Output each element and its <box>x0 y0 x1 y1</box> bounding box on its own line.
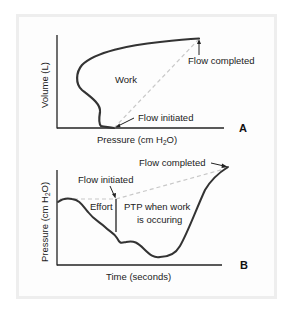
chart-a-work-label: Work <box>115 74 137 85</box>
chart-a-flow-completed-label: Flow completed <box>188 55 255 66</box>
figure-svg: Work Flow completed Flow initiated Press… <box>0 0 292 312</box>
chart-b-flow-initiated-label: Flow initiated <box>78 174 133 185</box>
chart-b-ptp-label-line1: PTP when work <box>124 201 191 212</box>
chart-b-flow-initiated-arrow <box>110 186 114 195</box>
chart-b-flow-completed-label: Flow completed <box>139 157 206 168</box>
arrowhead-icon <box>112 193 116 199</box>
chart-b-letter: B <box>240 259 248 271</box>
chart-a-flow-initiated-label: Flow initiated <box>138 112 193 123</box>
chart-b-x-axis-label: Time (seconds) <box>106 271 171 282</box>
chart-a-x-axis-label: Pressure (cm H2O) <box>97 134 177 146</box>
chart-a-letter: A <box>239 122 247 134</box>
chart-b: Flow completed Flow initiated Effort PTP… <box>39 157 248 282</box>
chart-a-y-axis-label: Volume (L) <box>39 62 50 108</box>
chart-b-effort-label: Effort <box>90 201 113 212</box>
chart-b-y-axis-label: Pressure (cm H2O) <box>39 182 51 262</box>
chart-b-ptp-label-line2: is occuring <box>137 214 182 225</box>
chart-a: Work Flow completed Flow initiated Press… <box>39 35 255 146</box>
